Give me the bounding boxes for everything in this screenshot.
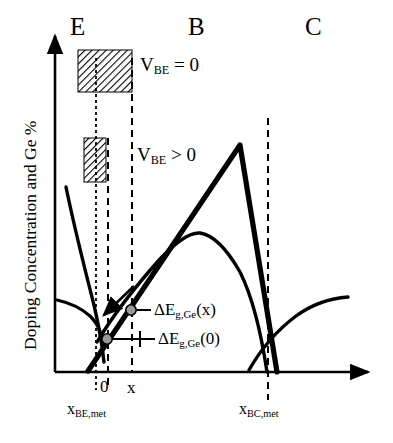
x-bc-met-main: x [239, 400, 247, 417]
hatched-box-vbe-zero [78, 50, 132, 92]
dEg-0-delta: ΔE [158, 329, 179, 348]
x-tick-label-x: x [127, 379, 136, 396]
annotation-delta-eg-ge-0: ΔEg,Ge(0) [158, 330, 220, 349]
vbe-pos-rel: > 0 [166, 144, 196, 165]
marker-dEg-0[interactable] [102, 334, 112, 344]
vbe-zero-main: V [140, 54, 154, 75]
marker-dEg-x[interactable] [126, 305, 136, 315]
curve-emitter-doping [66, 187, 104, 362]
vbe-zero-sub: BE [154, 63, 170, 77]
annotation-delta-eg-ge-x: ΔEg,Ge(x) [154, 301, 216, 320]
figure-root: Doping Concentration and Ge % E B C VBE … [0, 0, 393, 443]
dEg-x-sub: g,Ge [175, 308, 196, 320]
bias-label-vbe-positive: VBE > 0 [137, 145, 196, 167]
vbe-zero-rel: = 0 [169, 54, 199, 75]
x-marker-label-bc-met: xBC,met [239, 401, 279, 419]
region-label-emitter: E [70, 14, 85, 39]
y-axis-label: Doping Concentration and Ge % [20, 121, 41, 350]
dEg-x-delta: ΔE [154, 300, 175, 319]
hatched-boxes-group [78, 50, 132, 182]
x-bc-met-sub: BC,met [247, 408, 279, 419]
region-label-collector: C [305, 14, 322, 39]
vbe-pos-main: V [137, 144, 151, 165]
x-tick-label-zero: 0 [100, 378, 109, 395]
dEg-x-arg: (x) [196, 300, 216, 319]
x-be-met-main: x [67, 400, 75, 417]
region-label-base: B [188, 14, 205, 39]
bias-label-vbe-zero: VBE = 0 [140, 55, 199, 77]
dEg-0-sub: g,Ge [179, 337, 200, 349]
hatched-box-vbe-positive [84, 138, 106, 182]
x-marker-label-be-met: xBE,met [67, 401, 106, 419]
dEg-0-arg: (0) [200, 329, 220, 348]
x-be-met-sub: BE,met [75, 408, 106, 419]
vbe-pos-sub: BE [151, 153, 167, 167]
